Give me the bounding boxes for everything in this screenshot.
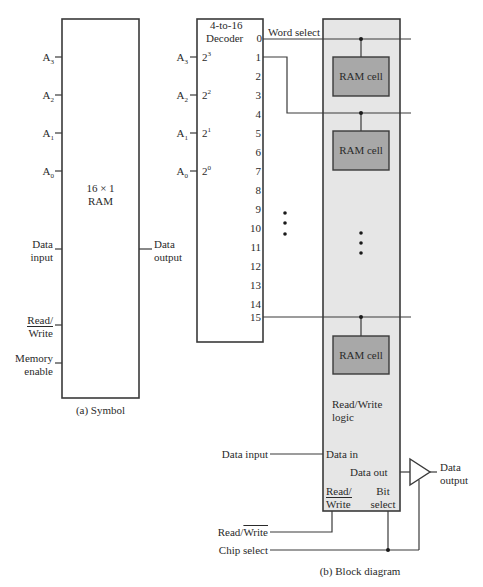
read-write-label: Read/Write <box>5 314 53 340</box>
data-output-block-label: Dataoutput <box>440 461 468 487</box>
data-output-label: Dataoutput <box>154 238 182 264</box>
dec-out-8: 8 <box>235 184 261 197</box>
ram-cell-label: RAM cell <box>333 144 389 157</box>
ram-symbol-box <box>62 19 139 398</box>
addr-label-a3: A3 <box>20 51 54 64</box>
junction-dot <box>386 548 390 552</box>
dec-out-12: 12 <box>235 260 261 273</box>
dec-out-2: 2 <box>235 70 261 83</box>
data-input-label: Datainput <box>5 238 53 264</box>
dec-weight-3: 23 <box>202 51 211 64</box>
dec-addr-a3: A3 <box>160 51 188 64</box>
decoder-title: 4-to-16 Decoder0 <box>206 19 262 45</box>
bit-select-label: Bitselect <box>366 485 400 511</box>
block-diagram-caption: (b) Block diagram <box>290 565 430 578</box>
memory-enable-label: Memoryenable <box>5 352 53 378</box>
data-in-label: Data in <box>326 448 358 461</box>
dec-out-15: 15 <box>235 311 261 324</box>
dec-out-14: 14 <box>235 298 261 311</box>
dec-out-6: 6 <box>235 146 261 159</box>
addr-label-a2: A2 <box>20 89 54 102</box>
addr-label-a0: A0 <box>20 165 54 178</box>
dec-out-10: 10 <box>235 222 261 235</box>
dec-out-11: 11 <box>235 241 261 254</box>
dec-out-7: 7 <box>235 165 261 178</box>
data-out-label: Data out <box>350 466 388 479</box>
dec-weight-1: 21 <box>202 127 211 140</box>
dec-out-1: 1 <box>235 51 261 64</box>
dec-out-3: 3 <box>235 89 261 102</box>
word-select-label: Word select <box>268 26 320 39</box>
read-write-block-label: Read/Write <box>190 526 268 539</box>
decoder-box <box>197 19 263 342</box>
ellipsis-dot <box>359 251 363 255</box>
ellipsis-dot <box>359 231 363 235</box>
read-write-wire <box>270 511 332 532</box>
ellipsis-dot <box>283 232 287 236</box>
ellipsis-dot <box>359 241 363 245</box>
dec-addr-a0: A0 <box>160 165 188 178</box>
rw-logic-label: Read/Writelogic <box>332 398 382 424</box>
junction-dot <box>359 37 363 41</box>
dec-out-5: 5 <box>235 127 261 140</box>
tristate-buffer <box>410 459 430 485</box>
symbol-caption: (a) Symbol <box>62 404 139 417</box>
dec-weight-2: 22 <box>202 89 211 102</box>
addr-label-a1: A1 <box>20 127 54 140</box>
rw-pin-label: Read/Write <box>326 485 352 511</box>
dec-addr-a1: A1 <box>160 127 188 140</box>
ellipsis-dot <box>283 221 287 225</box>
chip-select-label: Chip select <box>190 544 268 557</box>
dec-out-9: 9 <box>235 203 261 216</box>
ram-cell-label: RAM cell <box>333 70 389 83</box>
ram-cell-label: RAM cell <box>333 349 389 362</box>
dec-addr-a2: A2 <box>160 89 188 102</box>
junction-dot <box>359 111 363 115</box>
dec-out-13: 13 <box>235 279 261 292</box>
ellipsis-dot <box>283 211 287 215</box>
junction-dot <box>359 315 363 319</box>
data-input-block-label: Data input <box>190 448 268 461</box>
ram-title: 16 × 1RAM <box>62 182 139 208</box>
dec-out-4: 4 <box>235 108 261 121</box>
dec-weight-0: 20 <box>202 165 211 178</box>
